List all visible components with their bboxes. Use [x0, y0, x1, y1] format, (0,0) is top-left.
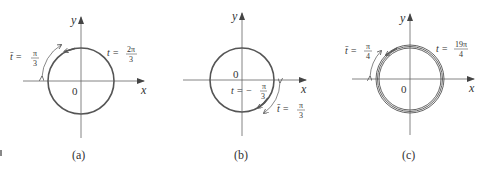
- tbar-label: t̄ =: [345, 45, 357, 56]
- panel-c: y x 0 t = 19π 4 t̄ = π 4 (c): [345, 11, 475, 162]
- x-label: x: [140, 83, 147, 97]
- t-numerator: π: [262, 82, 266, 91]
- panel-a: y x 0 t = 2π 3 t̄ = π 3 (a): [10, 13, 147, 162]
- tbar-denominator: 3: [299, 111, 303, 120]
- tbar-label: t̄ =: [277, 103, 289, 114]
- y-label: y: [399, 11, 406, 25]
- origin-label: 0: [72, 85, 78, 97]
- t-label: t =: [436, 43, 448, 54]
- tbar-label: t̄ =: [10, 51, 22, 62]
- t-numerator: 2π: [127, 45, 135, 54]
- x-label: x: [468, 81, 475, 95]
- caption-c: (c): [402, 148, 415, 162]
- y-label: y: [70, 13, 77, 27]
- caption-b: (b): [234, 148, 248, 162]
- tbar-numerator: π: [33, 49, 37, 58]
- unit-circle-figure: y x 0 t = 2π 3 t̄ = π 3 (a) y x 0 t = − …: [0, 0, 478, 172]
- t-label: t =: [107, 47, 119, 58]
- t-denominator: 3: [129, 55, 133, 64]
- caption-a: (a): [72, 148, 85, 162]
- origin-label: 0: [401, 83, 407, 95]
- edge-mark: [0, 150, 2, 156]
- reference-arc: [42, 45, 61, 77]
- t-label: t = −: [231, 85, 252, 96]
- panel-b: y x 0 t = − π 3 t̄ = π 3 (b): [183, 9, 307, 162]
- terminal-point-arrow: [65, 49, 76, 52]
- t-denominator: 3: [261, 92, 265, 101]
- t-numerator: 19π: [455, 40, 467, 49]
- tbar-denominator: 3: [33, 59, 37, 68]
- tbar-numerator: π: [299, 101, 303, 110]
- origin-label: 0: [233, 68, 239, 80]
- x-label: x: [300, 82, 307, 96]
- t-denominator: 4: [459, 50, 463, 59]
- y-label: y: [231, 9, 238, 23]
- tbar-numerator: π: [366, 42, 370, 51]
- tbar-denominator: 4: [366, 52, 370, 61]
